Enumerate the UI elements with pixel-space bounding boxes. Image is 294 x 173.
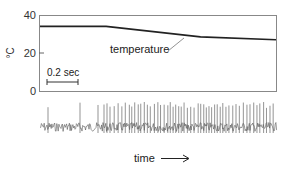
y-axis-label: °C	[5, 47, 16, 58]
y-tick-label-0: 0	[30, 85, 36, 97]
figure: 40 20 0 °C temperature 0.2 sec time	[0, 0, 294, 173]
y-tick-label-40: 40	[24, 9, 36, 21]
time-label: time	[134, 152, 155, 164]
scale-bar	[47, 79, 78, 85]
time-axis: time	[134, 152, 189, 164]
temperature-annotation: temperature	[110, 43, 169, 55]
scale-bar-label: 0.2 sec	[47, 67, 79, 78]
temperature-panel: 40 20 0 °C temperature 0.2 sec	[5, 9, 277, 97]
annotation-leader	[168, 38, 184, 51]
spike-trace	[40, 102, 277, 133]
y-tick-label-20: 20	[24, 47, 36, 59]
temperature-line	[40, 26, 276, 39]
